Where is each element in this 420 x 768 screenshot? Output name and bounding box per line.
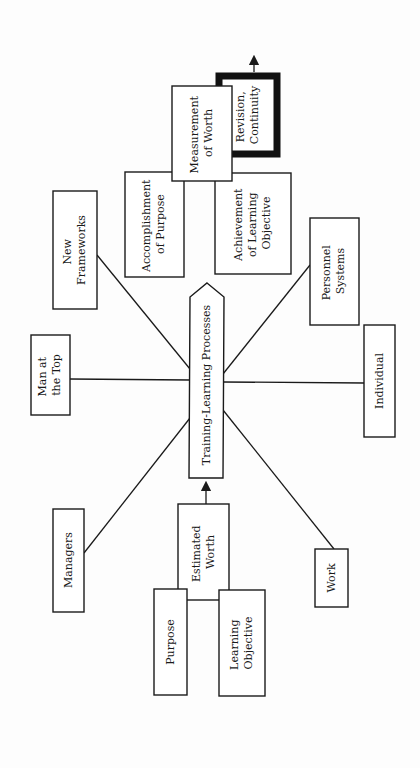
label-line: New: [61, 238, 74, 264]
svg-text:Learning Objective: Learning Objective: [228, 616, 255, 670]
label-line: of Learning: [246, 192, 259, 257]
connector-personnel-systems: [223, 265, 310, 374]
label-line: Accomplishment: [140, 179, 153, 273]
label-individual: Individual: [373, 353, 386, 409]
diagram-canvas: Revision, Continuity Accomplishment of P…: [0, 0, 420, 768]
label-line: Achievement: [232, 188, 245, 262]
box-estimated-worth: Estimated Worth: [178, 504, 229, 600]
label-continuity: Continuity: [248, 85, 261, 144]
label-line: Measurement: [188, 96, 201, 174]
connector-man-at-top: [70, 379, 190, 380]
label-line: Objective: [242, 617, 255, 670]
svg-text:Revision, Continuity: Revision, Continuity: [234, 85, 261, 144]
svg-text:Personnel Systems: Personnel Systems: [320, 242, 347, 301]
box-training-learning-processes: Training-Learning Processes: [189, 283, 224, 478]
center-label: Training-Learning Processes: [200, 304, 213, 465]
box-man-at-the-top: Man at the Top: [31, 335, 70, 415]
label-line: Personnel: [320, 245, 333, 301]
label-purpose: Purpose: [164, 619, 177, 665]
connector-work: [223, 410, 334, 549]
label-line: of Purpose: [154, 194, 167, 254]
label-line: the Top: [50, 354, 63, 396]
box-learning-objective: Learning Objective: [219, 590, 265, 696]
label-line: Frameworks: [75, 215, 88, 285]
box-achievement-of-learning-objective: Achievement of Learning Objective: [215, 173, 291, 274]
label-line: of Worth: [202, 109, 215, 157]
svg-text:Man at the Top: Man at the Top: [36, 354, 63, 397]
label-line: Estimated: [190, 525, 203, 582]
box-managers: Managers: [53, 509, 84, 612]
box-measurement-of-worth: Measurement of Worth: [172, 86, 232, 181]
label-work: Work: [325, 563, 338, 592]
box-work: Work: [315, 549, 348, 607]
box-personnel-systems: Personnel Systems: [310, 218, 359, 325]
label-line: Worth: [204, 535, 217, 569]
box-accomplishment-of-purpose: Accomplishment of Purpose: [125, 172, 184, 277]
box-new-frameworks: New Frameworks: [53, 191, 97, 309]
training-learning-diagram: Revision, Continuity Accomplishment of P…: [0, 0, 420, 768]
label-line: Learning: [228, 620, 241, 670]
label-line: Objective: [260, 197, 273, 250]
box-purpose: Purpose: [154, 589, 187, 695]
label-managers: Managers: [62, 532, 75, 588]
label-line: Man at: [36, 356, 49, 396]
label-line: Systems: [334, 247, 347, 294]
box-individual: Individual: [364, 325, 395, 437]
label-revision: Revision,: [234, 91, 247, 142]
connector-managers: [84, 418, 190, 553]
connector-individual: [223, 382, 364, 383]
